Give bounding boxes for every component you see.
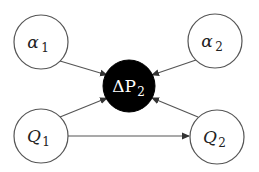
node-Q2-circle bbox=[190, 110, 244, 164]
node-Q1-circle bbox=[14, 109, 68, 163]
node-deltaP2-subscript: 2 bbox=[137, 85, 145, 99]
node-Q1-subscript: 1 bbox=[42, 135, 50, 149]
node-Q2: Q 2 bbox=[190, 110, 244, 164]
edge-alpha2-to-deltaP2 bbox=[152, 60, 196, 75]
node-Q1: Q 1 bbox=[14, 109, 68, 163]
node-alpha1: α 1 bbox=[14, 15, 68, 69]
node-Q2-subscript: 2 bbox=[218, 136, 226, 150]
node-alpha1-subscript: 1 bbox=[41, 41, 49, 55]
edge-alpha1-to-deltaP2 bbox=[60, 61, 107, 75]
node-deltaP2-symbol: ΔP bbox=[112, 76, 136, 96]
causal-diagram: α 1 α 2 Q 1 Q 2 ΔP 2 bbox=[0, 0, 259, 172]
node-alpha2: α 2 bbox=[188, 14, 242, 68]
node-Q2-symbol: Q bbox=[203, 127, 217, 147]
edge-Q1-to-deltaP2 bbox=[60, 98, 107, 117]
node-alpha1-symbol: α bbox=[27, 32, 39, 52]
node-alpha2-symbol: α bbox=[201, 31, 213, 51]
node-Q1-symbol: Q bbox=[27, 126, 41, 146]
node-alpha2-subscript: 2 bbox=[215, 40, 223, 54]
edge-Q2-to-deltaP2 bbox=[152, 98, 198, 117]
node-deltaP2: ΔP 2 bbox=[103, 60, 155, 112]
